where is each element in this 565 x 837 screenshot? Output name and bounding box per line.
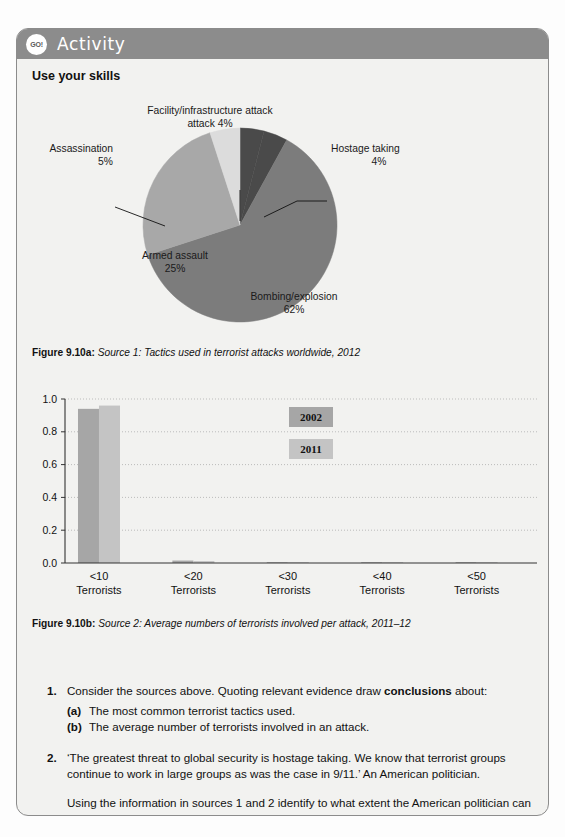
question-1b: (b) The average number of terrorists inv… (67, 719, 539, 736)
questions-list: 1. Consider the sources above. Quoting r… (47, 683, 539, 816)
question-2-number: 2. (47, 750, 67, 783)
figure-b-caption: Source 2: Average numbers of terrorists … (98, 618, 410, 629)
pie-facility-attack-word: attack (187, 118, 214, 129)
question-1a-text: The most common terrorist tactics used. (89, 703, 539, 720)
bar-chart-svg: 0.00.20.40.60.81.0 <10Terrorists<20Terro… (17, 377, 549, 617)
legend-label-2002: 2002 (300, 411, 323, 423)
activity-body: Use your skills Facility/infrastructure … (17, 59, 548, 815)
pie-label-armed-assault: Armed assault 25% (125, 250, 225, 275)
y-tick-label: 0.2 (42, 524, 57, 536)
activity-box: GO! Activity Use your skills Facility/in… (16, 28, 549, 816)
legend-label-2011: 2011 (300, 443, 321, 455)
figure-a-caption: Source 1: Tactics used in terrorist atta… (98, 347, 360, 358)
y-tick-label: 0.6 (42, 458, 57, 470)
question-1-text-before: Consider the sources above. Quoting rele… (67, 684, 384, 697)
question-2-followup-after: . (215, 812, 218, 816)
pie-chart-figure: Facility/infrastructure attack 4% attack… (17, 95, 549, 367)
x-tick-label-value: <20 (184, 570, 203, 582)
figure-caption-a: Figure 9.10a: Source 1: Tactics used in … (32, 347, 360, 358)
question-1b-marker: (b) (67, 719, 89, 736)
question-2-followup-before: Using the information in sources 1 and 2… (67, 796, 531, 817)
question-1a-marker: (a) (67, 703, 89, 720)
x-tick-label-unit: Terrorists (171, 584, 217, 596)
question-1b-text: The average number of terrorists involve… (89, 719, 539, 736)
pie-label-bombing: Bombing/explosion 62% (229, 291, 359, 316)
x-tick-label-unit: Terrorists (454, 584, 500, 596)
activity-header: GO! Activity (17, 29, 548, 59)
pie-label-hostage: Hostage taking 4% (331, 143, 471, 168)
question-2: 2. ‘The greatest threat to global securi… (47, 750, 539, 783)
question-1-text: Consider the sources above. Quoting rele… (67, 683, 539, 700)
y-tick-label: 1.0 (42, 393, 57, 405)
question-1-number: 1. (47, 683, 67, 700)
question-2-followup: Using the information in sources 1 and 2… (67, 795, 539, 817)
x-tick-label-unit: Terrorists (76, 584, 122, 596)
x-tick-label-unit: Terrorists (265, 584, 311, 596)
bar-2011-lt10 (99, 406, 120, 563)
go-badge-icon: GO! (26, 34, 47, 55)
x-tick-label-value: <30 (278, 570, 297, 582)
question-1a: (a) The most common terrorist tactics us… (67, 703, 539, 720)
question-1-text-after: about: (452, 684, 487, 697)
x-tick-label-value: <40 (373, 570, 392, 582)
figure-caption-b: Figure 9.10b: Source 2: Average numbers … (32, 618, 411, 629)
question-1: 1. Consider the sources above. Quoting r… (47, 683, 539, 700)
x-tick-label-unit: Terrorists (360, 584, 406, 596)
question-1-bold: conclusions (384, 684, 452, 697)
question-2-followup-bold: exaggeration (142, 812, 214, 816)
textbook-page: GO! Activity Use your skills Facility/in… (0, 0, 565, 837)
section-heading: Use your skills (32, 69, 120, 83)
activity-title: Activity (57, 34, 125, 54)
x-tick-label-value: <10 (90, 570, 109, 582)
y-tick-label: 0.8 (42, 425, 57, 437)
figure-b-label: Figure 9.10b: (32, 618, 95, 629)
y-tick-label: 0.0 (42, 557, 57, 569)
pie-label-facility: Facility/infrastructure attack 4% attack… (145, 105, 275, 130)
question-2-text: ‘The greatest threat to global security … (67, 750, 539, 783)
y-tick-label: 0.4 (42, 491, 57, 503)
bar-2002-lt10 (78, 409, 99, 563)
pie-facility-value: 4% (218, 118, 233, 129)
x-tick-label-value: <50 (467, 570, 486, 582)
pie-label-assassination: Assassination 5% (17, 143, 113, 168)
bar-chart-figure: 0.00.20.40.60.81.0 <10Terrorists<20Terro… (17, 377, 549, 647)
figure-a-label: Figure 9.10a: (32, 347, 95, 358)
